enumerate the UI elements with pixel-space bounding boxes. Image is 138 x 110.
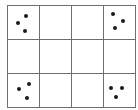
grid-row [8, 74, 136, 108]
grid-table [7, 5, 136, 108]
grid-row [8, 40, 136, 74]
grid-cell-r2c1 [40, 74, 72, 108]
dot-marker [113, 26, 117, 30]
dot-marker [24, 14, 28, 18]
dot-layer [40, 40, 71, 73]
grid-cell-r2c3 [104, 74, 136, 108]
dot-marker [23, 29, 27, 33]
grid-cell-r1c0 [8, 40, 40, 74]
dot-layer [8, 74, 39, 107]
dot-layer [72, 74, 103, 107]
dot-marker [16, 21, 20, 25]
dot-marker [114, 95, 118, 99]
grid-cell-r0c1 [40, 6, 72, 40]
dot-layer [104, 40, 135, 73]
grid-cell-r0c3 [104, 6, 136, 40]
dot-layer [72, 6, 103, 39]
dot-marker [27, 82, 31, 86]
dot-marker [111, 12, 115, 16]
dot-grid-figure [0, 0, 138, 110]
dot-layer [40, 6, 71, 39]
dot-layer [8, 40, 39, 73]
dot-layer [72, 40, 103, 73]
dot-marker [120, 86, 124, 90]
grid-cell-r2c2 [72, 74, 104, 108]
dot-layer [104, 6, 135, 39]
grid-cell-r0c2 [72, 6, 104, 40]
dot-marker [109, 86, 113, 90]
grid-cell-r1c3 [104, 40, 136, 74]
grid-body [8, 6, 136, 108]
grid-cell-r2c0 [8, 74, 40, 108]
dot-marker [25, 96, 29, 100]
dot-layer [104, 74, 135, 107]
dot-marker [121, 19, 125, 23]
dot-marker [17, 87, 21, 91]
dot-layer [8, 6, 39, 39]
grid-row [8, 6, 136, 40]
grid-cell-r1c1 [40, 40, 72, 74]
dot-layer [40, 74, 71, 107]
grid-cell-r0c0 [8, 6, 40, 40]
grid-cell-r1c2 [72, 40, 104, 74]
